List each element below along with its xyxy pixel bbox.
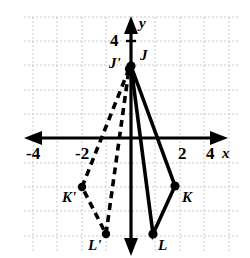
point-label-k-prime: K' (62, 190, 76, 205)
coordinate-plane-svg (0, 0, 250, 258)
point-label-l-prime: L' (88, 238, 101, 253)
triangle-preimage-j-k-l (131, 66, 175, 234)
graph-figure: -4 -2 2 4 4 x y J K L J' K' L' (0, 0, 250, 258)
vertex-l (148, 229, 157, 238)
x-tick-label-minus2: -2 (75, 145, 89, 162)
y-axis-down-arrow (124, 238, 138, 256)
y-tick-label-4: 4 (110, 32, 119, 49)
vertex-k-prime (78, 183, 86, 191)
vertex-l-prime (102, 230, 110, 238)
point-label-j: J (140, 48, 148, 63)
x-tick-label-2: 2 (178, 145, 187, 162)
y-axis-up-arrow (124, 16, 138, 34)
x-tick-label-4: 4 (206, 145, 215, 162)
point-label-j-prime: J' (109, 56, 121, 71)
x-axis-label: x (222, 146, 230, 161)
x-tick-label-minus4: -4 (26, 145, 40, 162)
point-label-l: L (158, 238, 167, 253)
vertex-k (170, 181, 179, 190)
vertex-j-prime (125, 65, 133, 73)
y-axis-label: y (139, 16, 146, 31)
point-label-k: K (182, 190, 192, 205)
x-axis-right-arrow (210, 131, 228, 145)
axes (24, 16, 228, 256)
